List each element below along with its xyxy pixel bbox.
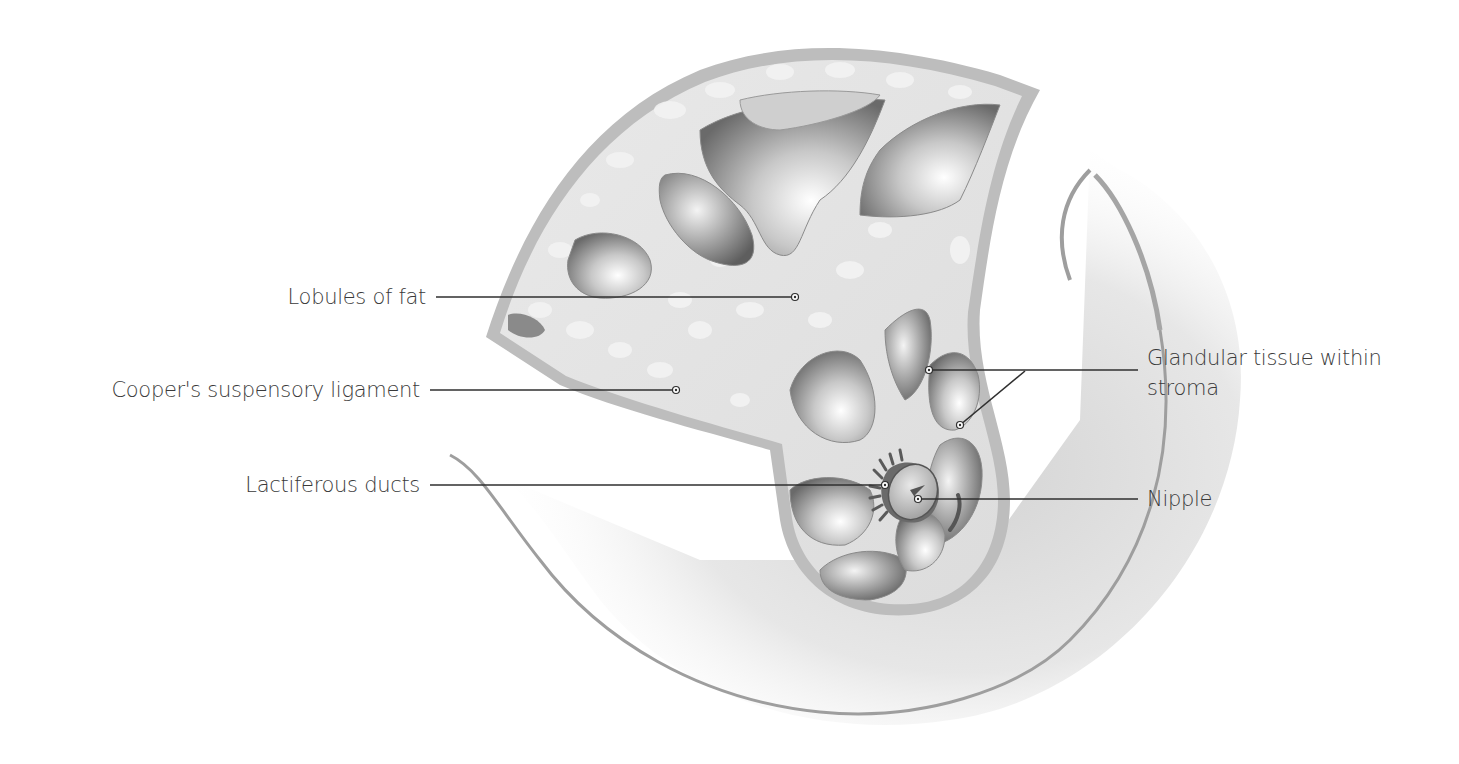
label-glandular-tissue-line2: stroma xyxy=(1147,373,1382,403)
label-coopers-suspensory-ligament: Cooper's suspensory ligament xyxy=(111,375,420,405)
label-glandular-tissue-line1: Glandular tissue within xyxy=(1147,343,1382,373)
label-glandular-tissue-within-stroma: Glandular tissue within stroma xyxy=(1147,343,1382,404)
breast-anatomy-diagram: Lobules of fat Cooper's suspensory ligam… xyxy=(0,0,1459,764)
label-lobules-of-fat: Lobules of fat xyxy=(288,282,426,312)
label-nipple: Nipple xyxy=(1147,484,1212,514)
label-lactiferous-ducts: Lactiferous ducts xyxy=(245,470,420,500)
